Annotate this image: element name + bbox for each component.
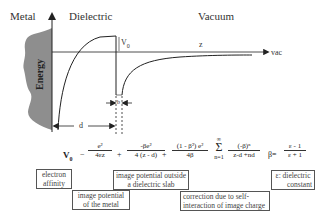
annotation-dielectric-constant: ε: dielectricconstant (271, 170, 315, 190)
annotation-self-interaction-correction: correction due to self-interaction of im… (180, 191, 270, 211)
formula-plus-2: + (162, 150, 167, 159)
vac-label: vac (271, 48, 282, 57)
formula-term-metal: e²4εz (88, 142, 112, 159)
formula-term-slab: -βe²4 (z - d) (127, 142, 165, 159)
beta-definition-fraction: ε - 1ε + 1 (284, 142, 306, 159)
summation: ∞ Σ n=1 (212, 136, 226, 161)
annotation-image-potential-slab: image potential outsidea dielectric slab (113, 170, 189, 190)
b-label: b (117, 99, 120, 105)
annotation-image-potential-metal: image potentialof the metal (72, 190, 130, 210)
formula-v0: V0 (63, 150, 73, 162)
d-label: d (79, 121, 83, 130)
z-axis-label: z (199, 40, 203, 49)
annotation-electron-affinity: electronaffinity (36, 169, 72, 189)
metal-label: Metal (10, 10, 36, 22)
formula-plus-1: + (117, 150, 122, 159)
v0-marker: V0 (121, 38, 130, 49)
vacuum-label: Vacuum (198, 10, 234, 22)
formula-minus: − (80, 150, 85, 159)
formula-term-correction: (1 - β²) e²4β (172, 142, 208, 159)
energy-axis-label: Energy (30, 52, 50, 92)
beta-definition-lhs: β= (268, 150, 277, 159)
formula-term-series: (-β)ⁿz-d +nd (228, 142, 260, 159)
dielectric-label: Dielectric (69, 10, 112, 22)
